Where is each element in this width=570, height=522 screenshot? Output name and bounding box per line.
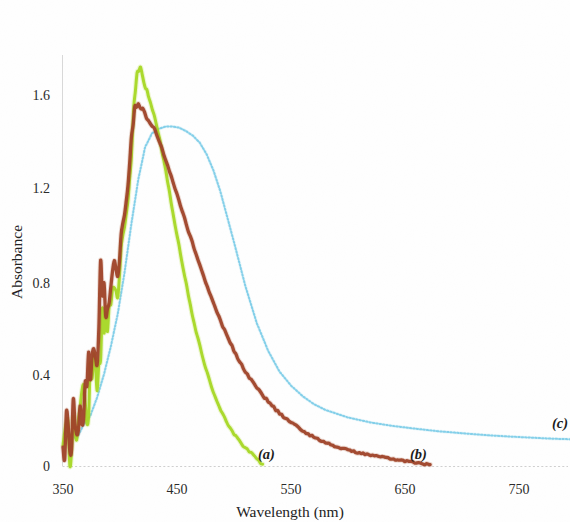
x-tick-label-550: 550 xyxy=(281,482,302,497)
x-tick-label-750: 750 xyxy=(509,482,530,497)
y-axis-title: Absorbance xyxy=(8,225,25,299)
paper-grain xyxy=(0,0,570,522)
y-tick-label-0: 0 xyxy=(43,459,50,474)
x-tick-label-450: 450 xyxy=(167,482,188,497)
x-axis-title: Wavelength (nm) xyxy=(236,503,344,521)
series-label-c: (c) xyxy=(552,415,568,432)
series-label-a: (a) xyxy=(258,446,275,463)
y-tick-label-0.4: 0.4 xyxy=(33,368,51,383)
y-tick-label-0.8: 0.8 xyxy=(33,276,51,291)
x-tick-label-350: 350 xyxy=(53,482,74,497)
y-tick-label-1.2: 1.2 xyxy=(33,181,51,196)
absorbance-spectrum-chart: 1.6 1.2 0.8 0.4 0 350 450 550 650 750 Wa… xyxy=(0,0,570,522)
series-label-b: (b) xyxy=(410,446,427,463)
x-tick-label-650: 650 xyxy=(395,482,416,497)
spectrum-figure: 1.6 1.2 0.8 0.4 0 350 450 550 650 750 Wa… xyxy=(0,0,570,522)
y-tick-label-1.6: 1.6 xyxy=(33,88,51,103)
